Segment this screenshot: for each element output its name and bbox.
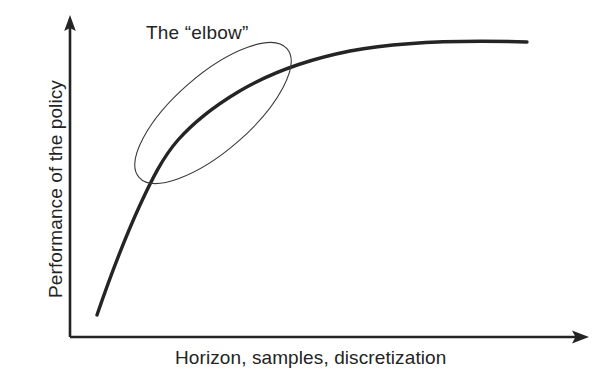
performance-curve (97, 41, 527, 315)
y-axis-label: Performance of the policy (45, 59, 67, 319)
chart-figure: The “elbow” Horizon, samples, discretiza… (0, 0, 614, 382)
elbow-ellipse (114, 20, 312, 206)
axes-group (64, 15, 589, 343)
elbow-annotation-label: The “elbow” (146, 22, 249, 44)
chart-canvas (0, 0, 614, 382)
x-axis-label: Horizon, samples, discretization (175, 347, 446, 369)
performance-curve-group (97, 41, 527, 315)
elbow-highlight-group (114, 20, 312, 206)
